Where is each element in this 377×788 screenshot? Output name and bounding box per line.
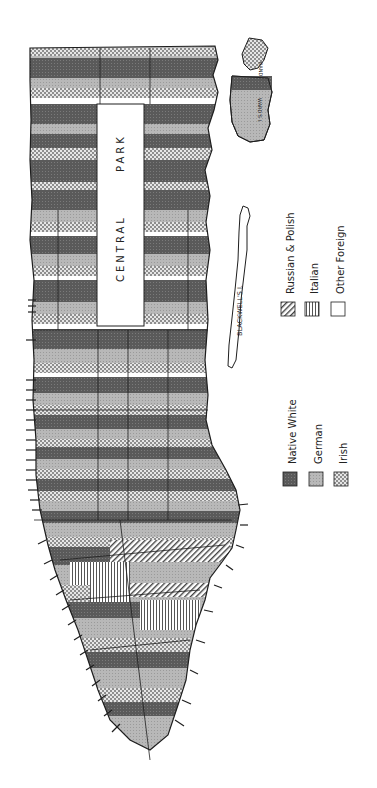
legend-item-russian-polish: Russian & Polish: [281, 212, 296, 316]
blackwells-label: BLACKWELL'S I.: [236, 285, 244, 336]
legend-label-italian: Italian: [309, 263, 320, 294]
blackwells-island: BLACKWELL'S I.: [228, 206, 250, 368]
wards-label: WARD'S I.: [257, 98, 263, 123]
central-park-label-central: CENTRAL: [115, 215, 126, 282]
central-park-label-park: PARK: [115, 134, 126, 172]
wards-island: WARD'S I.: [230, 76, 272, 142]
legend-item-italian: Italian: [305, 263, 320, 316]
legend-label-native-white: Native White: [287, 399, 298, 464]
legend-item-native-white: Native White: [283, 399, 298, 486]
legend-item-other-foreign: Other Foreign: [331, 225, 346, 316]
central-park: CENTRAL PARK: [97, 104, 144, 326]
legend-label-russian-polish: Russian & Polish: [285, 212, 296, 294]
legend-item-irish: Irish: [334, 443, 349, 486]
legend-label-irish: Irish: [338, 443, 349, 464]
legend: Native White German Irish Russian & Poli…: [281, 212, 349, 486]
legend-label-german: German: [313, 424, 324, 464]
manhattan-map: CENTRAL PARK BLACKWELL'S I. RAND'S I. WA…: [0, 0, 377, 788]
legend-item-german: German: [309, 424, 324, 486]
legend-label-other-foreign: Other Foreign: [335, 225, 346, 294]
